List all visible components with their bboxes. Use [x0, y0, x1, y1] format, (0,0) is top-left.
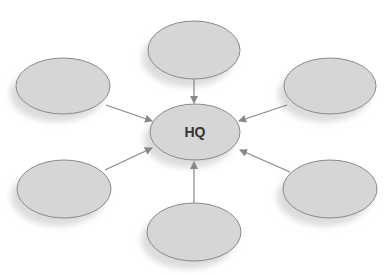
- node-lower-left: [17, 160, 111, 218]
- node-upper-left: [16, 58, 110, 114]
- arrow-lower-right-to-hq: [240, 150, 290, 172]
- node-upper-right: [284, 58, 376, 114]
- arrow-upper-left-to-hq: [106, 105, 152, 121]
- node-top: [148, 21, 240, 79]
- arrow-lower-left-to-hq: [105, 148, 152, 170]
- hub-label-hq: HQ: [150, 123, 240, 141]
- node-lower-right: [283, 160, 377, 218]
- node-bottom: [147, 203, 241, 261]
- arrow-upper-right-to-hq: [239, 105, 287, 121]
